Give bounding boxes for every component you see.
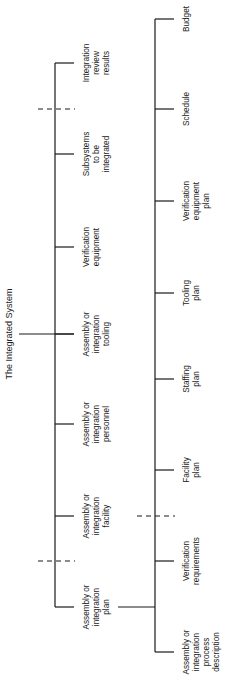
level1-label-line: Assembly or bbox=[82, 311, 91, 356]
level1-label-line: Integration bbox=[82, 43, 91, 82]
level1-label-line: Assembly or bbox=[82, 493, 91, 538]
level1-label-line: integration bbox=[92, 587, 101, 626]
level1-label-line: integration bbox=[92, 496, 101, 535]
work-breakdown-tree: The Integrated System Integrationreviewr… bbox=[0, 0, 229, 691]
level1-label-line: to be bbox=[92, 144, 101, 163]
level2-label-line: Schedule bbox=[182, 91, 191, 126]
level1-node: Assembly orintegrationpersonnel bbox=[55, 401, 111, 446]
level2-label-line: Facility bbox=[182, 456, 191, 482]
level1-node: Assembly orintegrationplan bbox=[55, 584, 111, 629]
level1-label-line: Verification bbox=[82, 227, 91, 267]
level2-label-line: requirements bbox=[192, 537, 201, 585]
level2-node: Assembly orintegrationprocessdescription bbox=[155, 629, 221, 674]
level1-label-line: facility bbox=[102, 504, 111, 528]
level1-label-line: results bbox=[102, 51, 111, 75]
level2-label-line: plan bbox=[202, 193, 211, 209]
level2-node: Staffingplan bbox=[155, 365, 201, 393]
level2-label-line: equipment bbox=[192, 181, 201, 220]
level1-label-line: integrated bbox=[102, 135, 111, 172]
level2-node: Toolingplan bbox=[155, 280, 201, 306]
level1-label-line: Assembly or bbox=[82, 584, 91, 629]
level2-label-line: integration bbox=[192, 632, 201, 671]
level2-label-line: plan bbox=[192, 371, 201, 387]
root-label: The Integrated System bbox=[4, 288, 14, 379]
level1-label-line: equipment bbox=[92, 227, 101, 266]
level2-label-line: Budget bbox=[182, 5, 191, 32]
level1-node: Verificationequipment bbox=[55, 227, 101, 267]
level1-label-line: Subsystems bbox=[82, 132, 91, 177]
level2-node: Verificationrequirements bbox=[155, 537, 201, 585]
level1-node: Assembly orintegrationfacility bbox=[55, 493, 111, 538]
level1-label-line: integration bbox=[92, 404, 101, 443]
level2-label-line: Verification bbox=[182, 541, 191, 581]
level1-node: Assembly orintegrationtooling bbox=[55, 311, 111, 356]
level2-label-line: process bbox=[202, 638, 211, 667]
level2-label-line: plan bbox=[192, 462, 201, 478]
level2-label-line: plan bbox=[192, 285, 201, 301]
level2-node: Schedule bbox=[155, 91, 191, 126]
level2-label-line: description bbox=[212, 632, 221, 672]
level1-label-line: integration bbox=[92, 314, 101, 353]
level1-label-line: tooling bbox=[102, 321, 111, 346]
level2-node: Budget bbox=[155, 5, 191, 32]
level1-node: Integrationreviewresults bbox=[55, 43, 111, 82]
level2-label-line: Staffing bbox=[182, 365, 191, 393]
level1-label-line: Assembly or bbox=[82, 401, 91, 446]
level1-node: Subsystemsto beintegrated bbox=[55, 132, 111, 177]
level1-label-line: review bbox=[92, 51, 101, 75]
level2-node: Verificationequipmentplan bbox=[155, 181, 211, 221]
level2-label-line: Tooling bbox=[182, 280, 191, 306]
level2-label-line: Assembly or bbox=[182, 629, 191, 674]
level2-node: Facilityplan bbox=[155, 456, 201, 482]
level1-label-line: personnel bbox=[102, 406, 111, 442]
level2-label-line: Verification bbox=[182, 181, 191, 221]
level1-label-line: plan bbox=[102, 599, 111, 615]
